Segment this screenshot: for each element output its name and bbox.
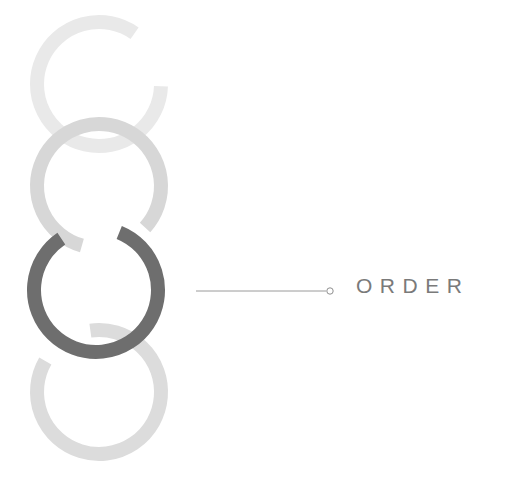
callout-endpoint-dot-icon — [327, 288, 333, 294]
diagram-canvas: ORDER — [0, 0, 515, 480]
callout-label-order: ORDER — [356, 275, 469, 296]
rings-graphic — [0, 0, 515, 480]
